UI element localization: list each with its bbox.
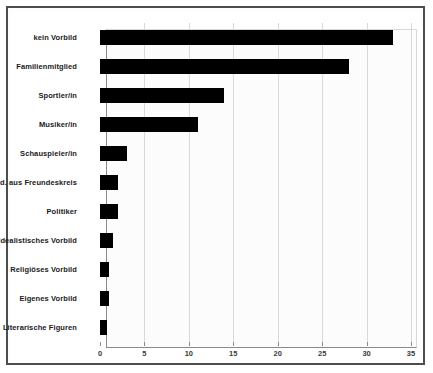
x-tick-label: 30 (354, 349, 380, 358)
bar-row (100, 255, 411, 284)
tick-mark-5 (144, 342, 145, 346)
category-label: Idealistisches Vorbild (0, 236, 77, 245)
x-tick-label: 15 (220, 349, 246, 358)
bar (100, 233, 113, 248)
bar-row (100, 52, 411, 81)
figure-paper: kein VorbildFamilienmitgliedSportler/inM… (11, 11, 420, 360)
tick-mark-35 (411, 342, 412, 346)
tick-mark-30 (367, 342, 368, 346)
category-label: Eigenes Vorbild (19, 294, 77, 303)
bar (100, 204, 118, 219)
gridline-x-35 (411, 23, 412, 342)
x-tick-label: 0 (87, 349, 113, 358)
bar-row (100, 23, 411, 52)
bar (100, 117, 198, 132)
bar (100, 59, 349, 74)
bar-row (100, 284, 411, 313)
tick-mark-0 (100, 342, 101, 346)
x-tick-label: 20 (265, 349, 291, 358)
category-label: Schauspieler/in (20, 149, 77, 158)
category-label: Religiöses Vorbild (10, 265, 77, 274)
x-tick-label: 25 (309, 349, 335, 358)
category-label: Literarische Figuren (3, 323, 77, 332)
x-tick-label: 35 (398, 349, 424, 358)
chart-figure: kein VorbildFamilienmitgliedSportler/inM… (0, 0, 433, 373)
bar (100, 146, 127, 161)
category-label: Musiker/in (39, 120, 77, 129)
bar (100, 30, 393, 45)
bar-row (100, 110, 411, 139)
bar (100, 175, 118, 190)
tick-mark-10 (189, 342, 190, 346)
tick-mark-20 (278, 342, 279, 346)
bar-row (100, 139, 411, 168)
category-label: Politiker (47, 207, 78, 216)
bar-row (100, 313, 411, 342)
bar (100, 291, 109, 306)
figure-outer-frame: kein VorbildFamilienmitgliedSportler/inM… (6, 6, 425, 365)
bar (100, 320, 107, 335)
category-label: Jmd. aus Freundeskreis (0, 178, 77, 187)
bar-row (100, 168, 411, 197)
bar (100, 88, 224, 103)
category-label: Sportler/in (38, 91, 77, 100)
tick-mark-15 (233, 342, 234, 346)
category-label: kein Vorbild (33, 33, 77, 42)
tick-mark-25 (322, 342, 323, 346)
bar-row (100, 226, 411, 255)
category-label: Familienmitglied (16, 62, 77, 71)
x-tick-label: 10 (176, 349, 202, 358)
bar (100, 262, 109, 277)
bar-row (100, 81, 411, 110)
bar-row (100, 197, 411, 226)
x-tick-label: 5 (131, 349, 157, 358)
